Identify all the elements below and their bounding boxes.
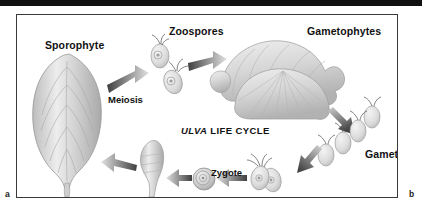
top-black-strip <box>0 0 422 6</box>
label-zygote: Zygote <box>211 167 242 178</box>
germling-icon <box>140 140 163 197</box>
life-cycle-panel: Sporophyte Zoospores Gametophytes Meiosi… <box>16 14 398 198</box>
label-meiosis: Meiosis <box>108 94 143 105</box>
label-fertilization: Fertilization <box>286 195 339 198</box>
label-gametophytes: Gametophytes <box>307 25 381 37</box>
title-rest: LIFE CYCLE <box>210 125 269 136</box>
gametophyte-thallus-icon <box>210 41 344 120</box>
label-gametes: Gametes <box>365 148 398 160</box>
fertilization-cells-icon <box>247 154 284 194</box>
cycle-arrow-icon <box>107 65 149 93</box>
part-label-a: a <box>5 189 10 199</box>
cycle-arrow-icon <box>166 169 192 187</box>
zoospore-cell-icon <box>151 34 189 96</box>
label-zoospores: Zoospores <box>169 25 224 37</box>
title-genus: ULVA <box>181 125 207 136</box>
cycle-arrow-icon <box>101 153 137 172</box>
figure-title: ULVA LIFE CYCLE <box>181 125 270 136</box>
part-label-b: b <box>409 189 414 199</box>
sporophyte-blade-icon <box>33 54 102 197</box>
label-sporophyte: Sporophyte <box>45 39 104 51</box>
cycle-arrow-icon <box>188 51 227 71</box>
figure-root: a b <box>0 0 422 218</box>
